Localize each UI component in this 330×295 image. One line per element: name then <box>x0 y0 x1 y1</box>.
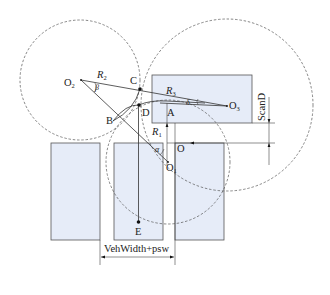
label-delta: δ <box>186 98 190 107</box>
point-d <box>137 103 141 107</box>
arrow-right <box>170 256 174 259</box>
label-d: D <box>142 107 150 118</box>
label-r2: R2 <box>96 69 107 81</box>
point-e <box>137 220 141 224</box>
point-c <box>138 87 142 91</box>
parked-vehicle-right <box>175 143 224 240</box>
point-o3 <box>226 105 228 107</box>
parking-geometry-diagram: O2 O3 O1 O A B C D E R2 R3 R1 β δ α Scan… <box>0 0 330 295</box>
circle-o2 <box>20 20 140 140</box>
point-o2 <box>80 79 82 81</box>
label-o: O <box>177 143 185 154</box>
label-o2: O2 <box>64 77 75 89</box>
scan-arrow-down <box>268 119 271 123</box>
label-e: E <box>135 226 141 237</box>
label-scan-distance: ScanD <box>256 93 267 121</box>
label-r1: R1 <box>151 126 162 138</box>
label-beta: β <box>94 83 99 92</box>
label-a: A <box>167 107 175 118</box>
label-width-span: VehWidth+psw <box>104 243 169 254</box>
label-c: C <box>130 75 137 86</box>
parked-vehicle-left <box>51 143 100 240</box>
label-b: B <box>106 115 113 126</box>
scan-arrow-up <box>268 143 271 147</box>
arrow-left <box>101 256 105 259</box>
a-arrow <box>166 123 169 127</box>
